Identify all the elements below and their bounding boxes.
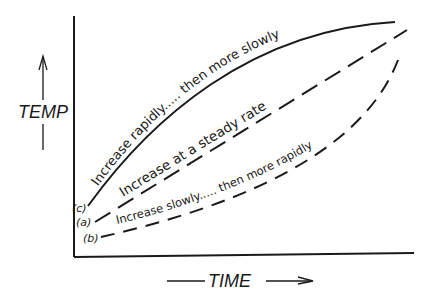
curve-a-marker: (a) [76,216,91,229]
x-axis [74,253,414,257]
y-axis-label: TEMP [18,102,68,122]
curve-c-marker: (c) [72,202,87,215]
x-axis-label: TIME [208,271,252,291]
curve-b-marker: (b) [83,232,99,245]
temperature-time-diagram: TEMP TIME Increase rapidly..... then mor… [0,0,427,307]
